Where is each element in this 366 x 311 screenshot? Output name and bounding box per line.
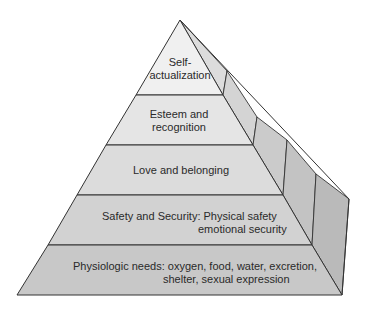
level-3-label: Love and belonging (133, 164, 229, 177)
level-4-label: Safety and Security: Physical safety emo… (102, 210, 287, 236)
level-4-line-2: emotional security (102, 223, 287, 236)
level-2-label: Esteem and recognition (150, 108, 209, 134)
level-5-line-1: Physiologic needs: oxygen, food, water, … (73, 260, 317, 273)
level-1-line-1: Self- (149, 56, 210, 69)
level-1-label: Self- actualization (149, 56, 210, 82)
level-4-line-1: Safety and Security: Physical safety (102, 210, 287, 223)
level-5-line-2: shelter, sexual expression (73, 273, 317, 286)
level-5-label: Physiologic needs: oxygen, food, water, … (73, 260, 317, 286)
level-2-line-1: Esteem and (150, 108, 209, 121)
level-2-line-2: recognition (150, 121, 209, 134)
level-3-line-1: Love and belonging (133, 164, 229, 177)
level-1-line-2: actualization (149, 69, 210, 82)
pyramid-diagram: Self- actualization Esteem and recogniti… (0, 0, 366, 311)
